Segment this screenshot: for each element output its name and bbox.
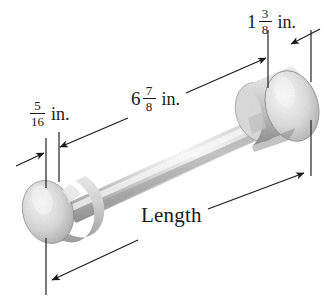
figure-canvas: 1 3 8 in. 6 7 8 in. 5 16 xyxy=(0,0,326,302)
numerator: 7 xyxy=(145,84,154,97)
whole-number: 1 xyxy=(247,12,257,31)
denominator: 8 xyxy=(145,100,154,113)
part-drawing xyxy=(0,0,326,302)
unit: in. xyxy=(162,90,181,108)
fraction: 3 8 xyxy=(259,7,272,36)
fraction: 7 8 xyxy=(143,84,156,113)
label-left-cap-width: 5 16 in. xyxy=(28,99,70,128)
dim-arrow-cap xyxy=(16,153,44,166)
whole-number: 6 xyxy=(131,89,141,108)
dim-line-shaft-left xyxy=(60,118,128,147)
label-right-flange-width: 1 3 8 in. xyxy=(247,7,296,36)
fraction: 5 16 xyxy=(30,99,45,128)
unit: in. xyxy=(278,13,297,31)
numerator: 3 xyxy=(261,7,270,20)
numerator: 5 xyxy=(33,99,42,112)
dim-line-length-left xyxy=(52,240,138,280)
label-overall-length: Length xyxy=(141,205,202,226)
dim-line-length-right xyxy=(208,173,304,209)
denominator: 16 xyxy=(30,115,45,128)
label-shaft-length: 6 7 8 in. xyxy=(131,84,180,113)
unit: in. xyxy=(51,105,70,123)
denominator: 8 xyxy=(261,23,270,36)
